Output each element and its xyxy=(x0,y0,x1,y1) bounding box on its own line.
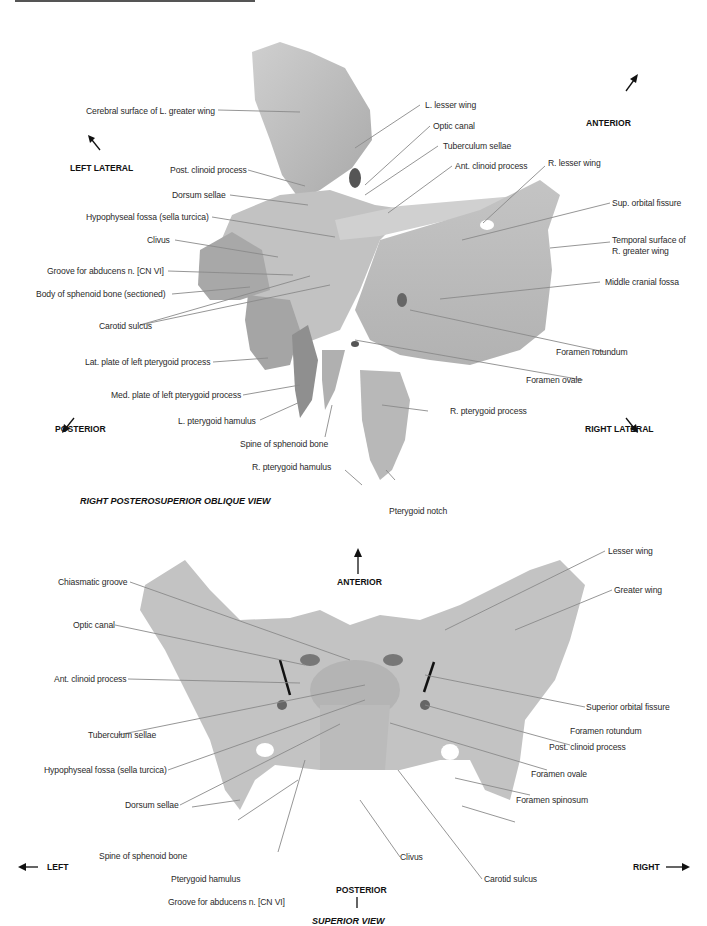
label-l-pterygoid-hamulus: L. pterygoid hamulus xyxy=(178,416,256,426)
label-r-greater-wing: R. greater wing xyxy=(612,246,669,256)
label-r-pterygoid-hamulus: R. pterygoid hamulus xyxy=(252,462,331,472)
label-optic-canal-superior: Optic canal xyxy=(73,620,115,630)
label-groove-abducens-superior: Groove for abducens n. [CN VI] xyxy=(168,897,285,907)
direction-posterior-superior: POSTERIOR xyxy=(336,885,387,895)
oblique-view-title: RIGHT POSTEROSUPERIOR OBLIQUE VIEW xyxy=(80,496,271,506)
label-foramen-rotundum-superior: Foramen rotundum xyxy=(570,726,641,736)
direction-left: LEFT xyxy=(47,862,68,872)
label-clivus: Clivus xyxy=(147,235,170,245)
label-carotid-sulcus: Carotid sulcus xyxy=(99,321,152,331)
label-sup-orbital-fissure: Sup. orbital fissure xyxy=(612,198,681,208)
direction-left-lateral: LEFT LATERAL xyxy=(70,163,133,173)
label-spine-of-sphenoid-superior: Spine of sphenoid bone xyxy=(99,851,187,861)
label-lesser-wing: Lesser wing xyxy=(608,546,653,556)
label-cerebral-surface-l-greater-wing: Cerebral surface of L. greater wing xyxy=(86,106,215,116)
label-med-plate-pterygoid: Med. plate of left pterygoid process xyxy=(111,390,241,400)
label-middle-cranial-fossa: Middle cranial fossa xyxy=(605,277,679,287)
label-r-pterygoid-process: R. pterygoid process xyxy=(450,406,527,416)
direction-anterior-oblique: ANTERIOR xyxy=(586,118,631,128)
label-foramen-ovale-superior: Foramen ovale xyxy=(531,769,587,779)
label-ant-clinoid-process: Ant. clinoid process xyxy=(455,161,528,171)
label-post-clinoid-superior: Post. clinoid process xyxy=(549,742,626,752)
label-dorsum-sellae-superior: Dorsum sellae xyxy=(125,800,179,810)
direction-posterior-oblique: POSTERIOR xyxy=(55,424,106,434)
label-foramen-rotundum: Foramen rotundum xyxy=(556,347,627,357)
direction-right: RIGHT xyxy=(633,862,660,872)
label-clivus-superior: Clivus xyxy=(400,852,423,862)
label-dorsum-sellae: Dorsum sellae xyxy=(172,190,226,200)
label-foramen-spinosum: Foramen spinosum xyxy=(516,795,588,805)
label-body-of-sphenoid: Body of sphenoid bone (sectioned) xyxy=(36,289,166,299)
superior-view-title: SUPERIOR VIEW xyxy=(312,916,385,926)
label-lat-plate-pterygoid: Lat. plate of left pterygoid process xyxy=(85,357,210,367)
label-optic-canal: Optic canal xyxy=(433,121,475,131)
label-hypophyseal-fossa-superior: Hypophyseal fossa (sella turcica) xyxy=(44,765,167,775)
label-tuberculum-sellae: Tuberculum sellae xyxy=(443,141,511,151)
label-carotid-sulcus-superior: Carotid sulcus xyxy=(484,874,537,884)
direction-right-lateral: RIGHT LATERAL xyxy=(585,424,654,434)
label-ant-clinoid-superior: Ant. clinoid process xyxy=(54,674,127,684)
label-chiasmatic-groove: Chiasmatic groove xyxy=(58,577,127,587)
label-pterygoid-notch: Pterygoid notch xyxy=(389,506,447,516)
label-post-clinoid-process: Post. clinoid process xyxy=(170,165,247,175)
label-foramen-ovale: Foramen ovale xyxy=(526,375,582,385)
label-spine-of-sphenoid: Spine of sphenoid bone xyxy=(240,439,328,449)
superior-view-bone xyxy=(140,560,585,810)
label-greater-wing: Greater wing xyxy=(614,585,662,595)
label-r-lesser-wing: R. lesser wing xyxy=(548,158,601,168)
label-pterygoid-hamulus: Pterygoid hamulus xyxy=(171,874,240,884)
label-l-lesser-wing: L. lesser wing xyxy=(425,100,476,110)
label-tuberculum-sellae-superior: Tuberculum sellae xyxy=(88,730,156,740)
label-temporal-surface: Temporal surface of xyxy=(612,235,686,245)
direction-anterior-superior: ANTERIOR xyxy=(337,577,382,587)
label-superior-orbital-fissure: Superior orbital fissure xyxy=(586,702,670,712)
label-groove-abducens: Groove for abducens n. [CN VI] xyxy=(47,266,164,276)
label-hypophyseal-fossa: Hypophyseal fossa (sella turcica) xyxy=(86,212,209,222)
